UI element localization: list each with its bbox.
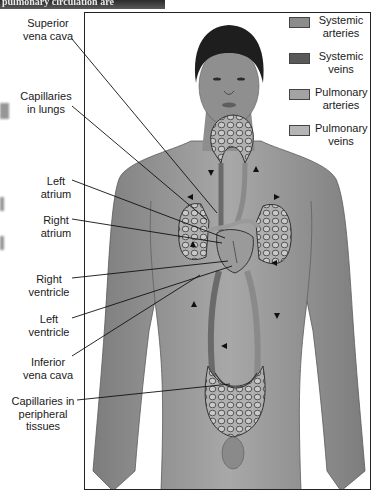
label-capillaries-in-peripheral-tissues: Capillaries in peripheral tissues bbox=[10, 395, 76, 433]
label-line: vena cava bbox=[22, 30, 74, 43]
label-line: Right bbox=[38, 214, 74, 227]
legend-label-line: veins bbox=[315, 63, 367, 76]
page-edge-fragment bbox=[0, 236, 4, 250]
label-left-ventricle: Left ventricle bbox=[24, 313, 74, 338]
legend-label-line: Systemic bbox=[315, 14, 367, 27]
legend-label-line: veins bbox=[315, 135, 367, 148]
label-line: tissues bbox=[10, 420, 76, 433]
label-left-atrium: Left atrium bbox=[38, 175, 74, 200]
label-inferior-vena-cava: Inferior vena cava bbox=[22, 356, 74, 381]
label-line: vena cava bbox=[22, 369, 74, 382]
label-right-ventricle: Right ventricle bbox=[24, 273, 74, 298]
legend: Systemic arteries Systemic veins Pulmona… bbox=[285, 14, 370, 158]
label-line: Right bbox=[24, 273, 74, 286]
legend-label: Pulmonary veins bbox=[315, 122, 367, 147]
label-line: ventricle bbox=[24, 286, 74, 299]
legend-label: Systemic arteries bbox=[315, 14, 367, 39]
page-edge-fragment bbox=[0, 103, 9, 119]
label-line: Capillaries in bbox=[10, 395, 76, 408]
label-line: Superior bbox=[22, 17, 74, 30]
label-line: Capillaries bbox=[18, 90, 74, 103]
label-line: Left bbox=[38, 175, 74, 188]
swatch-pulmonary-arteries bbox=[289, 89, 310, 100]
header-title: pulmonary circulation are bbox=[0, 0, 165, 6]
label-line: atrium bbox=[38, 227, 74, 240]
swatch-systemic-arteries bbox=[289, 17, 310, 28]
legend-label-line: arteries bbox=[315, 27, 367, 40]
label-capillaries-in-lungs: Capillaries in lungs bbox=[18, 90, 74, 115]
header-fragment: pulmonary circulation are bbox=[0, 0, 165, 9]
label-line: in lungs bbox=[18, 103, 74, 116]
legend-item-systemic-veins: Systemic veins bbox=[285, 50, 370, 86]
legend-label: Systemic veins bbox=[315, 50, 367, 75]
label-superior-vena-cava: Superior vena cava bbox=[22, 17, 74, 42]
legend-label: Pulmonary arteries bbox=[315, 86, 367, 111]
legend-label-line: arteries bbox=[315, 99, 367, 112]
legend-item-pulmonary-veins: Pulmonary veins bbox=[285, 122, 370, 158]
legend-label-line: Pulmonary bbox=[315, 86, 367, 99]
label-line: Left bbox=[24, 313, 74, 326]
swatch-pulmonary-veins bbox=[289, 125, 310, 136]
label-line: peripheral bbox=[10, 408, 76, 421]
label-right-atrium: Right atrium bbox=[38, 214, 74, 239]
swatch-systemic-veins bbox=[289, 53, 310, 64]
legend-label-line: Systemic bbox=[315, 50, 367, 63]
label-line: Inferior bbox=[22, 356, 74, 369]
legend-item-pulmonary-arteries: Pulmonary arteries bbox=[285, 86, 370, 122]
label-line: ventricle bbox=[24, 326, 74, 339]
page-edge-fragment bbox=[0, 197, 4, 211]
legend-label-line: Pulmonary bbox=[315, 122, 367, 135]
label-line: atrium bbox=[38, 188, 74, 201]
legend-item-systemic-arteries: Systemic arteries bbox=[285, 14, 370, 50]
